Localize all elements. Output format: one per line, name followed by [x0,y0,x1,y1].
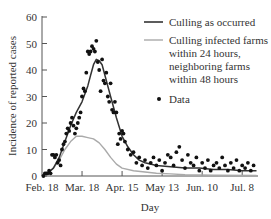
data-point [235,158,239,162]
data-point [93,50,97,54]
data-point [119,137,123,141]
x-axis-label: Day [141,201,160,213]
data-point [67,129,71,133]
data-point [240,164,244,168]
data-point [217,166,221,170]
data-point [122,132,126,136]
data-point [106,95,110,99]
data-point [126,148,130,152]
data-point [140,164,144,168]
data-point [96,60,100,64]
legend: Culling as occurred Culling infected far… [144,16,268,105]
data-point [149,161,153,165]
data-point [237,169,241,173]
x-tick-label: Apr. 15 [106,181,140,193]
x-tick-label: Mar. 18 [65,181,100,193]
data-point [155,164,159,168]
data-point [116,142,120,146]
data-point [200,161,204,165]
data-point [89,50,93,54]
data-point [107,100,111,104]
data-point [49,171,53,175]
data-point [129,153,133,157]
chart-canvas: Incidence of reported cases 010203040506… [0,0,271,219]
data-point [223,164,227,168]
data-point [252,164,256,168]
y-tick-label: 50 [26,38,38,50]
data-point [80,95,84,99]
data-point [143,158,147,162]
data-point [229,161,233,165]
x-ticks: Feb. 18Mar. 18Apr. 15May 13Jun. 10Jul. 8 [26,171,255,193]
data-point [77,116,81,120]
data-point [209,169,213,173]
x-tick-label: May 13 [145,181,179,193]
y-tick-label: 20 [26,117,38,129]
data-point [60,148,64,152]
data-point [152,156,156,160]
data-point [54,153,58,157]
data-point [189,161,193,165]
x-tick-label: Feb. 18 [26,181,60,193]
y-axis-label: Incidence of reported cases [6,36,18,156]
data-point [183,166,187,170]
data-point [103,81,107,85]
legend-item-rapid-culling-line2: within 24 hours, [169,47,241,59]
data-point [135,161,139,165]
data-point [177,145,181,149]
data-point [180,158,184,162]
data-point [172,164,176,168]
data-point [220,156,224,160]
data-point [59,164,63,168]
data-point [232,166,236,170]
data-point [64,132,68,136]
data-point [70,116,74,120]
data-point [79,111,83,115]
data-point [203,166,207,170]
data-point [215,161,219,165]
data-point [109,81,113,85]
data-point [246,161,250,165]
data-point [175,150,179,154]
legend-dot-icon [157,97,161,101]
data-point [76,121,80,125]
data-point [157,158,161,162]
data-point [94,39,98,43]
data-point [226,169,230,173]
data-point [206,158,210,162]
x-tick-label: Jul. 8 [230,181,254,193]
data-point [137,156,141,160]
legend-item-rapid-culling-line4: within 48 hours [169,73,238,85]
y-tick-label: 40 [26,64,38,76]
data-point [146,166,150,170]
data-point [169,156,173,160]
data-point [99,89,103,93]
data-point [117,132,121,136]
data-point [113,100,117,104]
data-point [104,71,108,75]
data-point [243,166,247,170]
data-point [163,161,167,165]
data-point [72,124,76,128]
data-point [57,158,61,162]
y-tick-label: 30 [26,91,38,103]
data-point [195,156,199,160]
legend-item-data: Data [169,93,190,105]
legend-item-rapid-culling-line3: neighboring farms [169,60,250,72]
data-point [212,164,216,168]
data-point [132,150,136,154]
data-point [186,153,190,157]
data-point [160,169,164,173]
data-point [69,121,73,125]
data-point [97,68,101,72]
data-point [115,111,119,115]
y-tick-label: 60 [26,11,38,23]
data-point [84,71,88,75]
data-point [73,132,77,136]
y-ticks: 0102030405060 [26,11,47,182]
y-tick-label: 10 [26,144,38,156]
data-point [192,164,196,168]
x-tick-label: Jun. 10 [186,181,218,193]
data-point [123,140,127,144]
data-point [74,126,78,130]
